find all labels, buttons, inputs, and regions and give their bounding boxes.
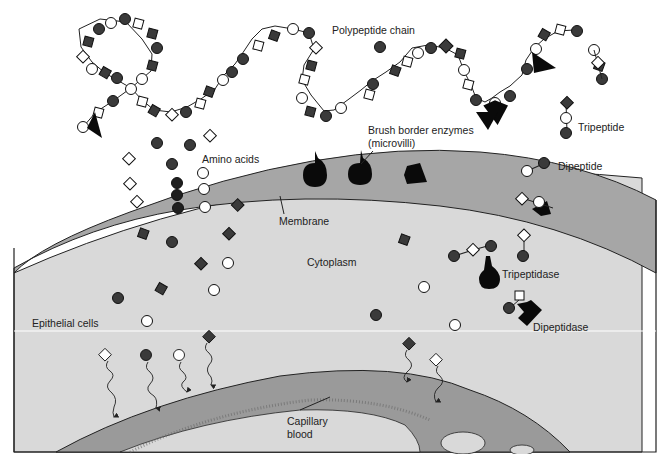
- label-dipeptide: Dipeptide: [558, 160, 602, 172]
- label-dipeptidase: Dipeptidase: [533, 321, 588, 333]
- label-cytoplasm: Cytoplasm: [307, 256, 357, 268]
- tripeptide: [561, 96, 574, 138]
- label-epithelial-cells: Epithelial cells: [32, 317, 99, 329]
- label-brush-border-enzymes: Brush border enzymes: [368, 124, 474, 136]
- protein-digestion-diagram: [0, 0, 669, 454]
- label-blood: blood: [287, 428, 313, 440]
- label-membrane: Membrane: [279, 215, 329, 227]
- label-amino-acids: Amino acids: [202, 153, 259, 165]
- label-polypeptide-chain: Polypeptide chain: [332, 24, 415, 36]
- capillary-lumen-hole: [441, 432, 485, 454]
- label-microvilli: (microvilli): [368, 137, 415, 149]
- label-capillary: Capillary: [287, 415, 328, 427]
- label-tripeptide: Tripeptide: [578, 121, 624, 133]
- label-tripeptidase: Tripeptidase: [502, 268, 559, 280]
